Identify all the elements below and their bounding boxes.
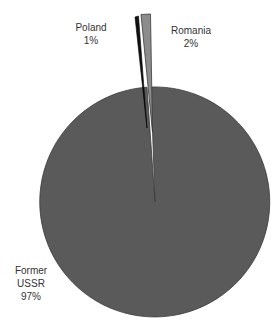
label-romania: Romania 2% — [168, 24, 214, 50]
label-romania-name: Romania — [168, 24, 214, 37]
slice-former-ussr — [40, 87, 270, 317]
label-former-ussr: Former USSR 97% — [2, 264, 60, 303]
label-romania-pct: 2% — [168, 37, 214, 50]
label-former-ussr-name: Former USSR — [2, 264, 60, 290]
label-former-ussr-pct: 97% — [2, 290, 60, 303]
label-poland-name: Poland — [72, 21, 110, 34]
label-poland-pct: 1% — [72, 34, 110, 47]
label-poland: Poland 1% — [72, 21, 110, 47]
